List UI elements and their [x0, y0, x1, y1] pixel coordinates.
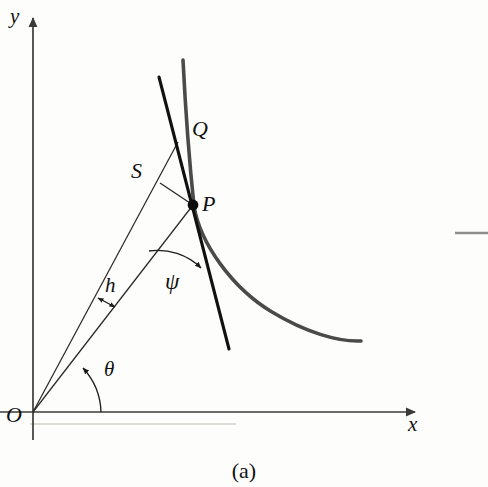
point-q-label: Q: [192, 118, 208, 140]
y-axis-label: y: [10, 6, 19, 27]
x-axis-label: x: [408, 414, 417, 435]
angle-psi-label: ψ: [165, 270, 179, 293]
measure-arrow-h: [98, 298, 115, 307]
figure-caption: (a): [0, 458, 488, 484]
angle-arc-theta: [83, 368, 101, 412]
point-s-label: S: [131, 160, 142, 182]
angle-arc-psi: [149, 250, 201, 268]
point-p-dot: [188, 200, 199, 211]
origin-label: O: [6, 404, 22, 426]
figure-panel: y x O Q P S h ψ θ (a): [0, 0, 488, 487]
length-h-label: h: [105, 275, 116, 296]
angle-theta-label: θ: [104, 359, 114, 380]
point-p-label: P: [202, 193, 215, 215]
